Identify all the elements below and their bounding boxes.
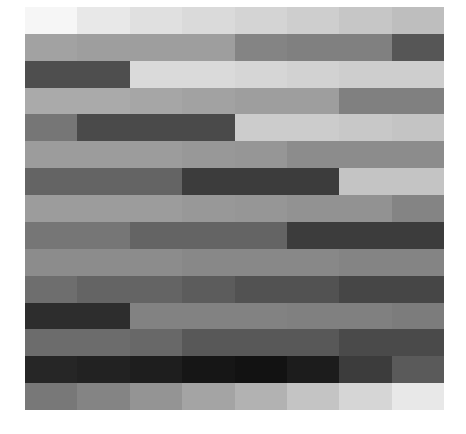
heatmap-cell (392, 141, 444, 168)
heatmap-cell (130, 141, 182, 168)
heatmap-cell (25, 303, 77, 330)
heatmap-cell (235, 195, 287, 222)
heatmap-cell (287, 114, 339, 141)
heatmap-cell (182, 329, 234, 356)
heatmap-cell (182, 34, 234, 61)
heatmap-cell (392, 383, 444, 410)
heatmap-cell (130, 114, 182, 141)
heatmap-cell (130, 383, 182, 410)
heatmap-cell (287, 61, 339, 88)
heatmap-cell (287, 222, 339, 249)
heatmap-cell (130, 195, 182, 222)
heatmap-cell (25, 276, 77, 303)
heatmap-cell (339, 383, 391, 410)
heatmap-cell (339, 141, 391, 168)
heatmap-cell (182, 276, 234, 303)
heatmap-cell (77, 276, 129, 303)
heatmap-cell (77, 249, 129, 276)
heatmap-cell (25, 34, 77, 61)
heatmap-cell (130, 249, 182, 276)
heatmap-cell (235, 7, 287, 34)
heatmap-cell (392, 88, 444, 115)
heatmap-cell (392, 249, 444, 276)
heatmap-cell (130, 303, 182, 330)
heatmap-cell (130, 356, 182, 383)
heatmap-cell (235, 356, 287, 383)
heatmap-cell (182, 7, 234, 34)
heatmap-cell (287, 141, 339, 168)
heatmap-cell (182, 383, 234, 410)
heatmap-cell (25, 329, 77, 356)
heatmap-cell (392, 329, 444, 356)
heatmap-cell (235, 168, 287, 195)
heatmap-cell (25, 114, 77, 141)
heatmap-cell (287, 356, 339, 383)
heatmap-cell (235, 383, 287, 410)
heatmap-cell (235, 303, 287, 330)
heatmap-cell (77, 168, 129, 195)
heatmap-cell (339, 195, 391, 222)
heatmap-cell (235, 114, 287, 141)
heatmap-grid (25, 7, 444, 410)
heatmap-cell (392, 7, 444, 34)
heatmap-cell (287, 276, 339, 303)
heatmap-cell (339, 356, 391, 383)
heatmap-cell (392, 61, 444, 88)
heatmap-cell (235, 329, 287, 356)
heatmap-cell (339, 7, 391, 34)
heatmap-cell (25, 168, 77, 195)
heatmap-cell (392, 356, 444, 383)
heatmap-cell (77, 61, 129, 88)
heatmap-cell (25, 88, 77, 115)
heatmap-cell (77, 222, 129, 249)
heatmap-cell (77, 7, 129, 34)
heatmap-cell (182, 88, 234, 115)
heatmap-cell (287, 249, 339, 276)
heatmap-cell (392, 195, 444, 222)
heatmap-cell (287, 303, 339, 330)
heatmap-cell (182, 222, 234, 249)
heatmap-cell (287, 34, 339, 61)
heatmap-cell (130, 7, 182, 34)
heatmap-cell (182, 303, 234, 330)
heatmap-cell (77, 356, 129, 383)
heatmap-cell (130, 34, 182, 61)
heatmap-cell (25, 7, 77, 34)
heatmap-cell (339, 303, 391, 330)
heatmap-cell (235, 141, 287, 168)
heatmap-cell (182, 61, 234, 88)
heatmap-cell (77, 88, 129, 115)
heatmap-cell (182, 195, 234, 222)
heatmap-cell (182, 141, 234, 168)
heatmap-cell (130, 61, 182, 88)
heatmap-cell (287, 195, 339, 222)
heatmap-cell (130, 168, 182, 195)
heatmap-cell (287, 168, 339, 195)
heatmap-cell (287, 329, 339, 356)
heatmap-cell (25, 61, 77, 88)
heatmap-cell (392, 276, 444, 303)
heatmap-cell (339, 222, 391, 249)
heatmap-cell (77, 141, 129, 168)
heatmap-cell (25, 249, 77, 276)
heatmap-cell (339, 114, 391, 141)
heatmap-cell (182, 249, 234, 276)
heatmap-cell (77, 303, 129, 330)
heatmap-cell (77, 114, 129, 141)
heatmap-cell (339, 61, 391, 88)
heatmap-cell (339, 88, 391, 115)
heatmap-cell (25, 356, 77, 383)
heatmap-cell (130, 276, 182, 303)
heatmap-cell (392, 222, 444, 249)
heatmap-cell (130, 329, 182, 356)
heatmap-cell (287, 88, 339, 115)
heatmap-cell (182, 168, 234, 195)
heatmap-cell (235, 88, 287, 115)
heatmap-cell (130, 88, 182, 115)
heatmap-cell (25, 195, 77, 222)
heatmap-cell (182, 356, 234, 383)
heatmap-cell (287, 7, 339, 34)
heatmap-cell (25, 141, 77, 168)
heatmap-cell (339, 329, 391, 356)
heatmap-cell (77, 329, 129, 356)
